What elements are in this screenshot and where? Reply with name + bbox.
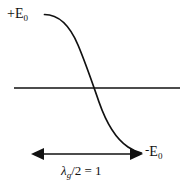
lambda-divisor: /2: [71, 163, 81, 178]
plus-sign: +: [7, 6, 15, 21]
arrowhead-right-icon: [130, 148, 143, 160]
equals-sign: =: [81, 163, 95, 178]
standing-wave-diagram: +E0 -E0 λg/2 = 1: [0, 0, 192, 188]
field-amplitude-curve: [45, 15, 142, 154]
dimension-label: λg/2 = 1: [61, 164, 102, 180]
negative-amplitude-label: -E0: [145, 143, 162, 161]
dimension-value: 1: [95, 163, 102, 178]
field-symbol-negative: E: [149, 144, 158, 159]
positive-amplitude-label: +E0: [7, 7, 28, 23]
arrowhead-left-icon: [31, 148, 44, 160]
figure-canvas: [0, 0, 192, 188]
field-subscript-negative: 0: [158, 151, 163, 161]
field-subscript-positive: 0: [23, 13, 28, 23]
